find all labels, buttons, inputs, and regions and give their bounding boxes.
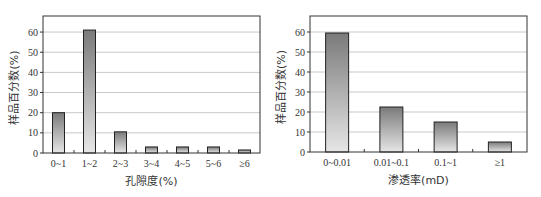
y-tick-label: 10 (295, 127, 305, 138)
y-tick-label: 40 (295, 67, 305, 78)
bar (488, 142, 511, 152)
y-tick-label: 0 (300, 147, 305, 158)
y-tick-label: 50 (295, 47, 305, 58)
x-tick-label: 1~2 (82, 158, 97, 169)
y-axis-title: 样品百分数(%) (274, 50, 288, 124)
y-tick-label: 50 (28, 47, 38, 58)
y-tick-label: 60 (295, 27, 305, 38)
bar (208, 147, 220, 153)
bar (177, 147, 189, 153)
y-tick-label: 20 (295, 107, 305, 118)
x-tick-label: 5~6 (206, 158, 221, 169)
x-tick-label: 0.01~0.1 (374, 157, 409, 168)
bar (380, 107, 403, 152)
x-tick-label: 4~5 (175, 158, 190, 169)
porosity-histogram: 01020304050600~11~22~33~44~55~6≥6孔隙度(%)样… (0, 0, 270, 197)
bar (84, 30, 96, 153)
x-tick-label: 0.1~1 (434, 157, 457, 168)
y-tick-label: 30 (28, 87, 38, 98)
x-tick-label: ≥1 (495, 157, 506, 168)
y-tick-label: 40 (28, 67, 38, 78)
bar (434, 122, 457, 152)
x-axis-title: 渗透率(mD) (388, 173, 449, 187)
permeability-chart-svg: 01020304050600~0.010.01~0.10.1~1≥1渗透率(mD… (270, 0, 541, 197)
bar (146, 147, 158, 153)
x-tick-label: ≥6 (239, 158, 250, 169)
y-tick-label: 10 (28, 127, 38, 138)
y-tick-label: 20 (28, 107, 38, 118)
x-tick-label: 2~3 (113, 158, 128, 169)
bar (115, 132, 127, 153)
y-axis-title: 样品百分数(%) (7, 50, 21, 124)
bar (326, 33, 349, 152)
y-tick-label: 30 (295, 87, 305, 98)
permeability-histogram: 01020304050600~0.010.01~0.10.1~1≥1渗透率(mD… (270, 0, 541, 197)
y-tick-label: 0 (33, 148, 38, 159)
bar (53, 113, 65, 153)
x-axis-title: 孔隙度(%) (125, 174, 177, 188)
y-tick-label: 60 (28, 27, 38, 38)
x-tick-label: 0~0.01 (323, 157, 351, 168)
x-tick-label: 3~4 (144, 158, 159, 169)
porosity-chart-svg: 01020304050600~11~22~33~44~55~6≥6孔隙度(%)样… (0, 0, 270, 197)
x-tick-label: 0~1 (51, 158, 66, 169)
